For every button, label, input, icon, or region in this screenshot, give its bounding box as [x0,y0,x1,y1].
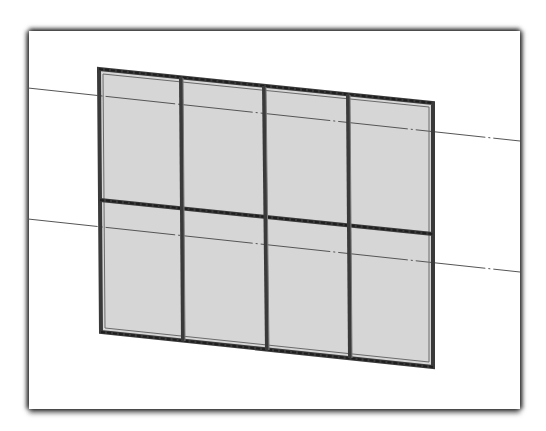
mullion-3 [348,94,350,358]
drawing-canvas [0,0,546,431]
curtain-wall-drawing [0,0,546,431]
mullion-1 [181,77,183,341]
